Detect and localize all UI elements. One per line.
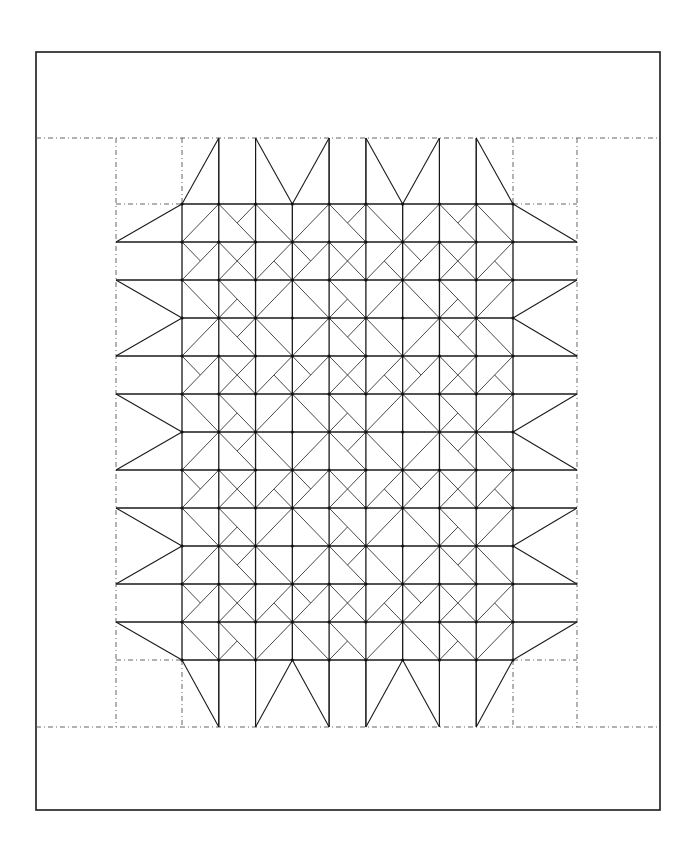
grid-node	[475, 240, 478, 243]
center-grid	[182, 204, 513, 660]
grid-node	[291, 430, 294, 433]
grid-node	[328, 582, 331, 585]
grid-node	[291, 392, 294, 395]
right-point-edge	[513, 622, 577, 660]
right-point-edge	[513, 318, 577, 356]
block-diagonal	[495, 489, 513, 508]
block-diagonal	[274, 603, 292, 622]
grid-node	[328, 544, 331, 547]
block-diagonal	[366, 204, 403, 242]
block-diagonal	[403, 280, 440, 318]
grid-node	[438, 392, 441, 395]
block-diagonal	[476, 622, 513, 660]
grid-node	[364, 544, 367, 547]
block-diagonal	[182, 622, 219, 660]
block-diagonal	[403, 622, 440, 660]
block-diagonal	[182, 204, 219, 242]
grid-node	[328, 468, 331, 471]
grid-node	[328, 240, 331, 243]
grid-node	[401, 278, 404, 281]
block-diagonal	[384, 261, 402, 280]
outer-border-rect	[36, 52, 660, 810]
block-diagonal	[384, 489, 402, 508]
block-diagonal	[292, 584, 310, 603]
block-diagonal	[329, 527, 347, 546]
grid-node	[438, 544, 441, 547]
block-diagonal	[366, 546, 403, 584]
grid-node	[438, 316, 441, 319]
grid-node	[364, 240, 367, 243]
top-point-edge	[403, 138, 440, 204]
grid-node	[254, 468, 257, 471]
block-diagonal	[476, 394, 513, 432]
grid-node	[217, 582, 220, 585]
bottom-point-edge	[292, 660, 329, 727]
block-diagonal	[348, 546, 366, 565]
grid-node	[401, 544, 404, 547]
grid-node	[180, 544, 183, 547]
bottom-point-edge	[182, 660, 219, 727]
grid-node	[328, 354, 331, 357]
grid-node	[511, 506, 514, 509]
top-point-edge	[292, 138, 329, 204]
grid-node	[217, 544, 220, 547]
grid-node	[217, 392, 220, 395]
block-diagonal	[439, 527, 457, 546]
right-point-edge	[513, 508, 577, 546]
block-diagonal	[329, 641, 347, 660]
grid-node	[438, 506, 441, 509]
grid-node	[475, 620, 478, 623]
block-diagonal	[458, 432, 476, 451]
block-diagonal	[403, 508, 440, 546]
grid-node	[364, 202, 367, 205]
block-diagonal	[274, 489, 292, 508]
grid-node	[254, 620, 257, 623]
grid-node	[291, 202, 294, 205]
grid-node	[364, 392, 367, 395]
block-diagonal	[237, 432, 255, 451]
right-point-edge	[513, 280, 577, 318]
block-diagonal	[219, 413, 237, 432]
block-diagonal	[182, 394, 219, 432]
grid-node	[180, 506, 183, 509]
block-diagonal	[256, 204, 293, 242]
grid-node	[475, 658, 478, 661]
grid-node	[475, 582, 478, 585]
grid-node	[511, 392, 514, 395]
grid-node	[475, 392, 478, 395]
grid-node	[291, 620, 294, 623]
grid-node	[180, 658, 183, 661]
block-diagonal	[366, 394, 403, 432]
grid-node	[291, 544, 294, 547]
grid-node	[217, 202, 220, 205]
grid-node	[511, 582, 514, 585]
grid-node	[364, 506, 367, 509]
grid-node	[254, 278, 257, 281]
grid-node	[291, 658, 294, 661]
grid-node	[291, 316, 294, 319]
top-point-edge	[182, 138, 219, 204]
grid-node	[438, 278, 441, 281]
grid-node	[475, 430, 478, 433]
block-diagonal	[403, 318, 440, 356]
block-diagonal	[366, 508, 403, 546]
grid-node	[328, 316, 331, 319]
grid-node	[180, 316, 183, 319]
grid-node	[438, 582, 441, 585]
grid-node	[254, 316, 257, 319]
block-diagonal	[237, 546, 255, 565]
grid-node	[254, 658, 257, 661]
grid-node	[401, 620, 404, 623]
quilt-diagram	[0, 0, 697, 859]
grid-node	[511, 658, 514, 661]
bottom-point-edge	[476, 660, 513, 727]
top-point-edge	[256, 138, 293, 204]
grid-node	[291, 278, 294, 281]
right-point-edge	[513, 204, 577, 242]
grid-node	[254, 506, 257, 509]
grid-node	[217, 278, 220, 281]
left-point-edge	[116, 394, 182, 432]
block-diagonal	[476, 508, 513, 546]
right-point-edge	[513, 546, 577, 584]
block-diagonal	[292, 546, 329, 584]
